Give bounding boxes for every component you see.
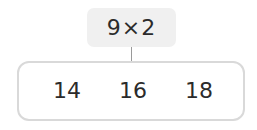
- question-box: 9×2: [87, 8, 176, 47]
- connector-line: [131, 47, 132, 62]
- options-box: 14 16 18: [17, 61, 245, 121]
- option-2[interactable]: 16: [119, 77, 147, 105]
- option-1[interactable]: 14: [53, 77, 81, 105]
- option-3[interactable]: 18: [185, 77, 213, 105]
- question-expression: 9×2: [107, 15, 156, 40]
